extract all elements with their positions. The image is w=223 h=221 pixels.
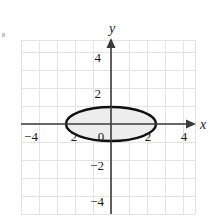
y-axis-label: y (107, 21, 116, 36)
y-tick-label-neg2: −2 (90, 158, 104, 173)
graph-figure: x y −4 0 2 4 2 4 2 −2 −4 (0, 0, 223, 221)
x-tick-label-0: 0 (98, 129, 105, 144)
x-axis-label: x (199, 117, 207, 132)
page-edge-mark (2, 33, 5, 37)
x-tick-label-4: 4 (181, 129, 188, 144)
y-tick-label-neg4: −4 (90, 194, 104, 209)
y-tick-label-4: 4 (95, 50, 102, 65)
y-tick-label-2: 2 (95, 86, 102, 101)
coordinate-plane-svg: x y −4 0 2 4 2 4 2 −2 −4 (0, 0, 223, 221)
x-tick-label-2: 2 (145, 129, 152, 144)
x-tick-label-neg4: −4 (24, 129, 38, 144)
x-tick-label-neg2: 2 (71, 129, 78, 144)
